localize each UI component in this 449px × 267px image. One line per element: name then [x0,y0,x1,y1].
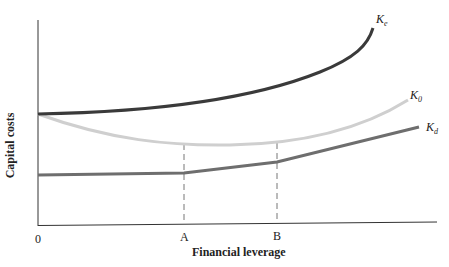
origin-label: 0 [35,232,41,247]
tick-a-label: A [180,230,189,245]
kd-curve [38,127,419,175]
x-axis [38,222,437,226]
kd-label: Kd [426,120,438,136]
k0-curve [38,100,408,145]
x-axis-title: Financial leverage [192,245,286,260]
k0-label: K0 [410,88,422,104]
ke-label: Ke [376,12,388,28]
tick-b-label: B [273,229,281,244]
chart-canvas [0,0,449,267]
ke-curve [38,28,373,114]
y-axis-title: Capital costs [3,113,18,179]
